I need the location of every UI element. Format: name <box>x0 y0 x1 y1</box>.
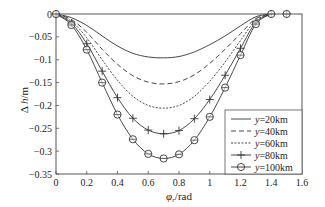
x-tick-label: 0.4 <box>111 177 124 188</box>
x-tick-label: 1 <box>207 177 212 188</box>
series-y-60km <box>56 14 271 108</box>
x-tick-label: 0 <box>54 177 59 188</box>
legend-item: y=100km <box>231 162 293 173</box>
legend-label: y=20km <box>254 114 288 125</box>
legend-label: y=80km <box>254 150 288 161</box>
x-tick-label: 1.4 <box>265 177 278 188</box>
legend-label: y=40km <box>254 126 288 137</box>
x-tick-label: 0.6 <box>142 177 155 188</box>
legend: y=20kmy=40kmy=60kmy=80kmy=100km <box>225 110 302 174</box>
y-tick-label: −0.25 <box>29 123 52 134</box>
x-tick-label: 1.2 <box>234 177 247 188</box>
y-tick-label: −0.2 <box>34 100 52 111</box>
x-tick-label: 1.6 <box>296 177 309 188</box>
x-tick-label: 0.2 <box>81 177 94 188</box>
x-axis-label: φr/rad <box>166 190 192 204</box>
y-tick-label: −0.1 <box>34 54 52 65</box>
y-tick-label: −0.35 <box>29 169 52 180</box>
y-tick-label: −0.05 <box>29 31 52 42</box>
chart-container: 00.20.40.60.811.21.41.60−0.05−0.1−0.15−0… <box>0 0 325 207</box>
y-tick-label: −0.15 <box>29 77 52 88</box>
y-tick-label: 0 <box>47 9 52 20</box>
series-line <box>56 14 271 108</box>
x-tick-label: 0.8 <box>173 177 186 188</box>
legend-label: y=100km <box>254 162 293 173</box>
line-chart: 00.20.40.60.811.21.41.60−0.05−0.1−0.15−0… <box>0 0 325 207</box>
y-tick-label: −0.3 <box>34 146 52 157</box>
legend-label: y=60km <box>254 138 288 149</box>
y-axis-label: Δ h/m <box>18 86 30 113</box>
